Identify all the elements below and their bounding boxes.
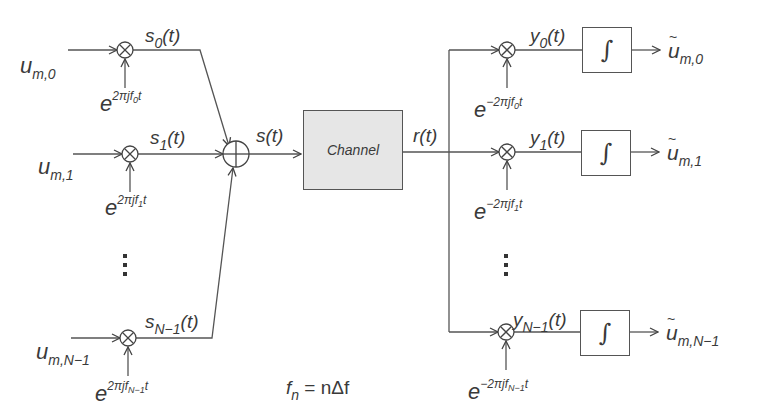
channel-output-r: r(t): [413, 126, 437, 145]
multiplier-icon-rx1: [499, 144, 515, 160]
multiplier-icon-tx1: [122, 146, 138, 162]
input-u-m1: um,1: [38, 156, 74, 182]
carrier-tx0: e2πjf0t: [100, 90, 141, 115]
output-u-m1: um,1: [667, 142, 702, 168]
signal-yN: yN−1(t): [513, 310, 567, 334]
integrator-block-N: ∫: [580, 310, 630, 356]
input-u-m0: um,0: [20, 55, 56, 81]
adder-icon: [223, 141, 249, 167]
multiplier-icon-rxN: [498, 324, 514, 340]
ellipsis-rx: [504, 254, 508, 281]
multiplier-icon-rx0: [499, 42, 515, 58]
signal-s0: s0(t): [145, 26, 180, 50]
signal-y1: y1(t): [530, 128, 565, 152]
ellipsis-tx: [123, 254, 127, 281]
channel-block: Channel: [303, 110, 403, 190]
sum-output-s: s(t): [256, 126, 283, 145]
multiplier-icons: [117, 42, 515, 346]
carrier-rxN: e−2πjfN−1t: [468, 378, 528, 403]
signal-y0: y0(t): [530, 26, 565, 50]
integrator-block-1: ∫: [581, 130, 631, 176]
multiplier-icon-txN: [120, 330, 136, 346]
output-u-m0: um,0: [668, 40, 703, 66]
integrator-block-0: ∫: [582, 27, 632, 73]
signal-s1: s1(t): [150, 128, 185, 152]
carrier-rx0: e−2πjf0t: [474, 96, 522, 121]
carrier-rx1: e−2πjf1t: [474, 198, 522, 223]
subcarrier-formula: fn = nΔf: [286, 378, 349, 402]
input-u-mN: um,N−1: [36, 341, 90, 367]
carrier-tx1: e2πjf1t: [105, 194, 146, 219]
multiplier-icon-tx0: [117, 42, 133, 58]
signal-sN: sN−1(t): [145, 312, 199, 336]
carrier-txN: e2πjfN−1t: [95, 380, 148, 405]
output-u-mN: um,N−1: [666, 322, 719, 348]
